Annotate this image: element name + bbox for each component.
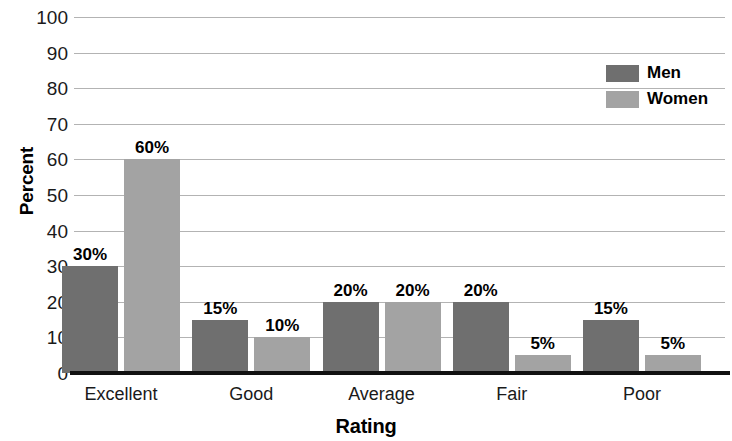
y-axis-tick-label: 70 xyxy=(22,115,68,134)
y-axis-tick-label: 90 xyxy=(22,44,68,63)
y-axis-tick-label: 100 xyxy=(22,8,68,27)
legend-item: Men xyxy=(606,60,726,86)
bar xyxy=(583,320,639,373)
y-axis-tick-label: 10 xyxy=(22,328,68,347)
y-axis-tick-label: 80 xyxy=(22,79,68,98)
y-axis-tick-label: 40 xyxy=(22,222,68,241)
x-axis-category-label: Excellent xyxy=(51,384,191,405)
y-axis-tick-label: 50 xyxy=(22,186,68,205)
bar-value-label: 60% xyxy=(114,138,190,158)
y-axis-tick-label: 60 xyxy=(22,150,68,169)
bar xyxy=(385,302,441,373)
gridline xyxy=(74,17,725,18)
x-axis-category-label: Average xyxy=(312,384,452,405)
legend-swatch xyxy=(606,65,639,82)
legend-item: Women xyxy=(606,86,726,112)
gridline xyxy=(74,53,725,54)
bar-value-label: 20% xyxy=(375,281,451,301)
bar xyxy=(453,302,509,373)
bar-value-label: 15% xyxy=(573,299,649,319)
y-axis-tick-label: 20 xyxy=(22,293,68,312)
bar xyxy=(323,302,379,373)
bar xyxy=(124,159,180,373)
bar-value-label: 5% xyxy=(635,334,711,354)
x-axis-title: Rating xyxy=(0,415,732,438)
legend-label: Men xyxy=(647,63,681,83)
bar xyxy=(254,337,310,373)
legend-swatch xyxy=(606,91,639,108)
gridline xyxy=(74,124,725,125)
x-axis-category-label: Good xyxy=(181,384,321,405)
bar-chart: Percent 1009080706050403020100 30%60%15%… xyxy=(0,0,732,441)
x-axis-category-label: Poor xyxy=(572,384,712,405)
x-axis-category-label: Fair xyxy=(442,384,582,405)
bar-value-label: 10% xyxy=(244,316,320,336)
legend: MenWomen xyxy=(606,60,726,112)
legend-label: Women xyxy=(647,89,708,109)
bar-value-label: 5% xyxy=(505,334,581,354)
bar-value-label: 30% xyxy=(52,245,128,265)
bar xyxy=(192,320,248,373)
x-axis-line xyxy=(70,371,730,375)
y-axis-tick-label: 0 xyxy=(22,364,68,383)
bar xyxy=(62,266,118,373)
y-axis-tick-labels: 1009080706050403020100 xyxy=(18,0,68,441)
bar-value-label: 20% xyxy=(443,281,519,301)
